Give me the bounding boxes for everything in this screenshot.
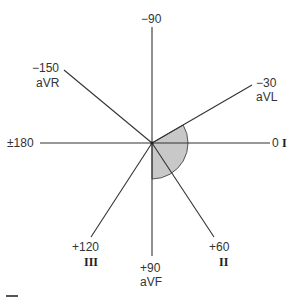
label-i-angle: 0 <box>272 136 279 150</box>
axis-lead-iii <box>91 143 152 237</box>
label-ii-angle: +60 <box>209 241 229 254</box>
label-avl-angle: −30 <box>256 77 276 90</box>
axis-avr <box>64 70 152 143</box>
label-plusminus-180: ±180 <box>7 137 34 150</box>
label-i-lead: I <box>282 136 287 150</box>
label-minus-90: −90 <box>141 13 161 26</box>
axis-avl <box>152 85 252 143</box>
label-lead-i: 0 I <box>272 137 287 150</box>
label-avl-lead: aVL <box>256 91 277 104</box>
label-avf-angle: +90 <box>140 262 160 275</box>
label-avr-lead: aVR <box>36 77 59 90</box>
label-avr-angle: −150 <box>32 62 59 75</box>
label-iii-lead: III <box>84 256 98 269</box>
label-iii-angle: +120 <box>72 241 99 254</box>
corner-marker <box>6 295 18 297</box>
label-avf-lead: aVF <box>140 276 162 289</box>
label-ii-lead: II <box>219 256 228 269</box>
hexaxial-diagram <box>0 0 297 300</box>
center-point <box>150 141 153 144</box>
